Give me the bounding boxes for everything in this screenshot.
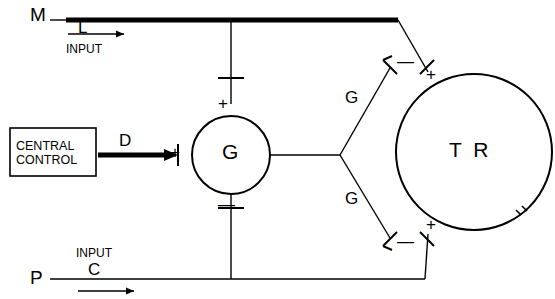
label-plus-tr-lower: + — [426, 216, 436, 234]
label-m: M — [30, 5, 46, 25]
fork-upper-lead — [340, 68, 390, 155]
label-plus-g-left: + — [170, 144, 180, 162]
tr-mark-1 — [516, 210, 521, 215]
tr-lower-minus-tick — [383, 246, 392, 250]
label-minus-tr-lower: — — [397, 233, 414, 251]
label-g-lower: G — [345, 190, 358, 208]
label-input-bottom: INPUT — [76, 247, 112, 260]
label-minus-tr-upper: — — [397, 53, 414, 71]
tr-upper-minus-tick — [383, 56, 392, 60]
central-control-label-line2: CONTROL — [16, 153, 77, 167]
tr-upper-minus-bar — [383, 60, 397, 74]
c-arrow-head — [126, 288, 134, 295]
central-control-label-line1: CENTRAL — [16, 139, 74, 153]
label-l: L — [78, 19, 87, 37]
label-plus-tr-upper: + — [426, 66, 436, 84]
tr-lower-minus-bar — [383, 232, 397, 246]
l-arrow-head — [116, 31, 124, 38]
label-g-center: G — [222, 141, 238, 163]
label-g-upper: G — [345, 89, 358, 107]
label-minus-g-bottom: — — [218, 196, 235, 214]
label-p: P — [30, 268, 43, 288]
label-c: C — [88, 261, 100, 279]
label-plus-g-top: + — [218, 95, 228, 113]
label-d: D — [119, 132, 131, 150]
label-input-top: INPUT — [66, 43, 102, 56]
diagram-canvas: M L INPUT P INPUT C CENTRAL CONTROL D G … — [0, 0, 555, 299]
label-tr: T R — [449, 139, 491, 161]
